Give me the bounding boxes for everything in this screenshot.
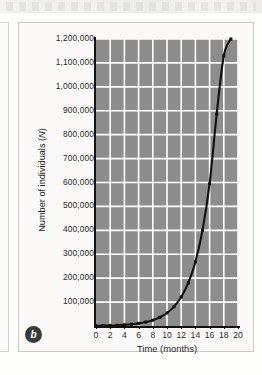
x-tick-mark [124, 326, 125, 329]
adjacent-figure-panel-edge [0, 22, 9, 352]
y-axis-title-variable: N [37, 131, 47, 138]
x-tick-mark [153, 326, 154, 329]
x-axis-tick-labels: 02468101214161820 [19, 330, 255, 344]
y-tick-label: 200,000 [22, 273, 94, 282]
x-tick-mark [96, 326, 97, 329]
y-tick-label: 300,000 [22, 249, 94, 258]
y-tick-label: 900,000 [22, 106, 94, 115]
panel-label-badge: b [25, 326, 42, 343]
plot-area [96, 39, 238, 326]
plot-wrapper: 100,000200,000300,000400,000500,000600,0… [19, 23, 255, 353]
y-tick-label: 1,100,000 [22, 58, 94, 67]
y-tick-label: 800,000 [22, 130, 94, 139]
data-series-curve [96, 39, 238, 326]
y-tick-label: 500,000 [22, 201, 94, 210]
y-tick-label: 100,000 [22, 297, 94, 306]
x-axis-title: Time (months) [79, 343, 255, 354]
x-tick-mark [110, 326, 111, 329]
y-axis-title: Number of individuals (N) [37, 95, 47, 265]
y-tick-label: 1,200,000 [22, 34, 94, 43]
x-tick-mark [167, 326, 168, 329]
x-tick-label: 20 [229, 330, 247, 340]
y-tick-label: 400,000 [22, 225, 94, 234]
y-axis-tick-labels: 100,000200,000300,000400,000500,000600,0… [19, 23, 94, 353]
x-tick-mark [238, 326, 239, 329]
x-tick-mark [195, 326, 196, 329]
y-axis-line [94, 37, 96, 328]
y-tick-label: 700,000 [22, 154, 94, 163]
figure-panel-b: 100,000200,000300,000400,000500,000600,0… [18, 22, 254, 352]
x-tick-mark [224, 326, 225, 329]
scan-artifact-band [0, 0, 262, 13]
y-tick-label: 1,000,000 [22, 82, 94, 91]
y-tick-label: 600,000 [22, 178, 94, 187]
y-axis-title-suffix: ) [37, 128, 47, 131]
x-tick-mark [181, 326, 182, 329]
y-axis-title-prefix: Number of individuals ( [37, 138, 47, 232]
scan-artifact-texture [6, 2, 256, 11]
x-tick-mark [210, 326, 211, 329]
x-tick-mark [139, 326, 140, 329]
